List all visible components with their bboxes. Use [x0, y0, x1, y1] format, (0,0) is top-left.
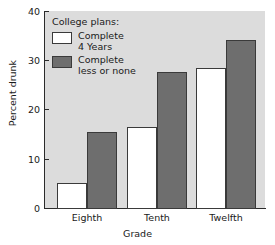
legend-label-line1: Complete: [78, 30, 124, 41]
bar-twelfth-complete-less-or-none: [226, 40, 256, 209]
legend: College plans: Complete 4 Years Complete…: [52, 16, 177, 78]
x-category-label-eighth: Eighth: [57, 213, 117, 223]
legend-label-line2: 4 Years: [78, 41, 112, 52]
legend-item-complete-less-or-none: Complete less or none: [52, 54, 177, 78]
x-axis-title: Grade: [0, 229, 275, 239]
bar-twelfth-complete-4-years: [196, 68, 226, 209]
bar-eighth-complete-4-years: [57, 183, 87, 209]
y-axis-title: Percent drunk: [8, 43, 18, 143]
legend-item-complete-4-years: Complete 4 Years: [52, 30, 177, 54]
legend-label-line1: Complete: [78, 54, 124, 65]
x-category-label-tenth: Tenth: [127, 213, 187, 223]
bar-tenth-complete-less-or-none: [157, 72, 187, 209]
x-category-label-twelfth: Twelfth: [196, 213, 256, 223]
bar-chart: 40 30 20 10 0 Percent drunk Eighth Tenth…: [0, 0, 275, 245]
y-tick-label-40: 40: [12, 7, 40, 17]
bar-tenth-complete-4-years: [127, 127, 157, 209]
legend-title: College plans:: [52, 16, 177, 27]
bar-eighth-complete-less-or-none: [87, 132, 117, 209]
y-tick-label-0: 0: [12, 204, 40, 214]
y-tick-label-10: 10: [12, 155, 40, 165]
legend-swatch-dark: [52, 56, 72, 68]
y-axis-line: [44, 11, 45, 209]
legend-swatch-light: [52, 32, 72, 44]
legend-label-line2: less or none: [78, 65, 136, 76]
